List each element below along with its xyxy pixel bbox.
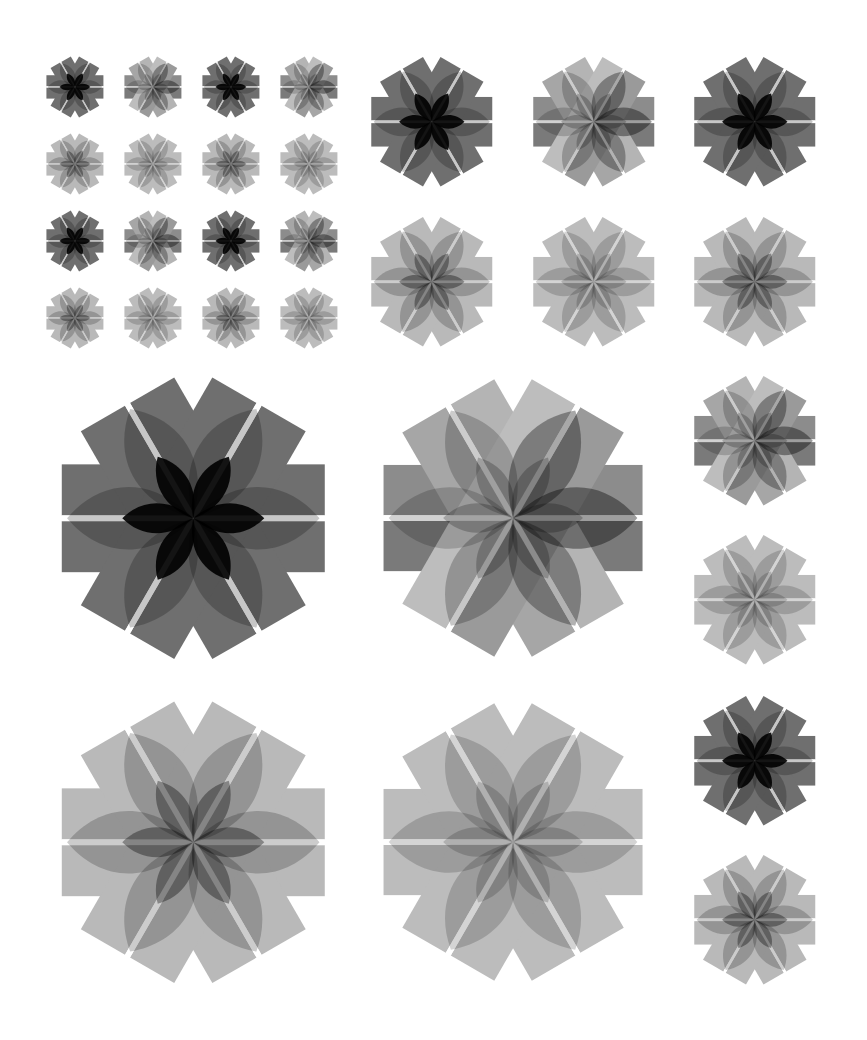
flower-pattern-icon [687,852,823,988]
flower-pattern-icon [687,373,823,509]
pattern-canvas [0,0,867,1040]
hex-flower-figure [364,214,500,350]
hex-flower-figure [46,371,341,666]
hex-flower-figure [277,132,341,196]
flower-pattern-icon [46,695,341,990]
flower-pattern-icon [43,55,107,119]
flower-pattern-icon [277,55,341,119]
hex-flower-figure [46,695,341,990]
flower-pattern-icon [43,132,107,196]
hex-flower-figure [43,209,107,273]
hex-flower-figure [43,132,107,196]
flower-pattern-icon [526,54,662,190]
flower-pattern-icon [526,214,662,350]
flower-pattern-icon [199,286,263,350]
hex-flower-figure [121,286,185,350]
flower-pattern-icon [43,286,107,350]
flower-pattern-icon [43,209,107,273]
flower-pattern-icon [46,371,341,666]
hex-flower-figure [687,214,823,350]
flower-pattern-icon [121,209,185,273]
flower-pattern-icon [364,214,500,350]
hex-flower-figure [277,55,341,119]
hex-flower-figure [199,55,263,119]
hex-flower-figure [687,852,823,988]
flower-pattern-icon [687,214,823,350]
flower-pattern-icon [364,54,500,190]
flower-pattern-icon [687,532,823,668]
flower-pattern-icon [368,373,658,663]
hex-flower-figure [277,209,341,273]
flower-pattern-icon [277,132,341,196]
hex-flower-figure [43,55,107,119]
hex-flower-figure [199,286,263,350]
flower-pattern-icon [368,697,658,987]
hex-flower-figure [526,214,662,350]
hex-flower-figure [687,54,823,190]
hex-flower-figure [687,532,823,668]
hex-flower-figure [368,373,658,663]
hex-flower-figure [121,209,185,273]
flower-pattern-icon [277,209,341,273]
flower-pattern-icon [199,209,263,273]
flower-pattern-icon [277,286,341,350]
flower-pattern-icon [687,54,823,190]
hex-flower-figure [199,132,263,196]
hex-flower-figure [687,693,823,829]
flower-pattern-icon [199,55,263,119]
flower-pattern-icon [121,55,185,119]
hex-flower-figure [121,55,185,119]
hex-flower-figure [277,286,341,350]
flower-pattern-icon [687,693,823,829]
flower-pattern-icon [199,132,263,196]
hex-flower-figure [687,373,823,509]
flower-pattern-icon [121,286,185,350]
hex-flower-figure [121,132,185,196]
hex-flower-figure [43,286,107,350]
hex-flower-figure [199,209,263,273]
flower-pattern-icon [121,132,185,196]
hex-flower-figure [368,697,658,987]
hex-flower-figure [364,54,500,190]
hex-flower-figure [526,54,662,190]
